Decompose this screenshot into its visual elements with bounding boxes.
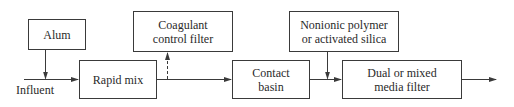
influent-label: Influent bbox=[16, 83, 54, 97]
dual-media-filter-box: Dual or mixed media filter bbox=[342, 60, 462, 99]
coagulant-control-filter-box: Coagulant control filter bbox=[133, 11, 233, 52]
rapid-mix-box: Rapid mix bbox=[79, 60, 157, 99]
alum-box: Alum bbox=[28, 19, 86, 50]
nonionic-polymer-box: Nonionic polymer or activated silica bbox=[289, 11, 399, 52]
process-flow-diagram: Alum Rapid mix Coagulant control filter … bbox=[0, 0, 514, 107]
rapid-mix-label: Rapid mix bbox=[93, 73, 143, 87]
contact-basin-box: Contact basin bbox=[232, 60, 310, 99]
alum-label: Alum bbox=[43, 28, 70, 42]
nonionic-polymer-label: Nonionic polymer or activated silica bbox=[300, 18, 388, 46]
contact-basin-label: Contact basin bbox=[252, 66, 289, 94]
coagulant-control-filter-label: Coagulant control filter bbox=[153, 18, 213, 46]
dual-media-filter-label: Dual or mixed media filter bbox=[367, 66, 436, 94]
